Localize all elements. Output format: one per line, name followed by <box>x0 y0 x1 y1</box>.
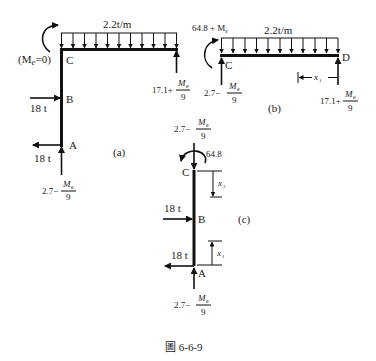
svg-text:e: e <box>186 83 189 89</box>
svg-text:17.1+: 17.1+ <box>152 85 173 95</box>
panel-tag-a: (a) <box>113 146 126 159</box>
svg-text:17.1+: 17.1+ <box>320 96 341 106</box>
svg-text:M: M <box>344 89 353 99</box>
panel-b: 2.2t/m 64.8 + Me C D x 1 2.7− M e 9 17.1… <box>192 23 358 115</box>
svg-text:9: 9 <box>201 307 206 317</box>
panel-a: 2.2t/m (Me=0) C B A 17.1+ M e 9 18 t 18 … <box>18 18 190 202</box>
panel-tag-b: (b) <box>268 102 281 115</box>
distributed-load-a <box>61 33 177 48</box>
panel-tag-c: (c) <box>238 213 251 226</box>
moment-label-b: 64.8 + Me <box>192 23 228 34</box>
svg-text:9: 9 <box>66 192 71 202</box>
moment-arrow-a <box>42 25 58 52</box>
svg-text:9: 9 <box>348 103 353 113</box>
reaction-bottom-label-a: 2.7− M e 9 <box>42 179 76 202</box>
svg-text:1: 1 <box>222 254 225 259</box>
svg-text:2.7−: 2.7− <box>204 88 220 98</box>
panel-c: 2.7− M e 9 64.8 C B A x 2 18 t (c) <box>163 117 251 317</box>
moment-label-a: (Me=0) <box>18 53 51 67</box>
svg-text:M: M <box>197 293 206 303</box>
moment-label-c: 64.8 <box>206 149 222 159</box>
node-c-a: C <box>66 54 73 66</box>
force-b-label-a: 18 t <box>30 102 47 114</box>
svg-text:9: 9 <box>201 131 206 141</box>
svg-text:M: M <box>177 78 186 88</box>
node-a-a: A <box>69 139 77 151</box>
svg-text:e: e <box>206 298 209 304</box>
svg-text:M: M <box>228 81 237 91</box>
svg-text:e: e <box>353 94 356 100</box>
node-d-b: D <box>342 51 350 63</box>
reaction-bottom-label-c: 2.7− M e 9 <box>174 293 211 317</box>
svg-text:M: M <box>197 117 206 127</box>
force-a-label-c: 18 t <box>171 249 188 261</box>
node-c-c: C <box>182 166 189 178</box>
node-c-b: C <box>225 59 232 71</box>
figure-caption: 圖 6-6-9 <box>165 341 203 353</box>
node-a-c: A <box>198 267 206 279</box>
svg-text:9: 9 <box>232 95 237 105</box>
force-b-label-c: 18 t <box>164 202 181 214</box>
dimension-x1-b: x 1 <box>298 72 337 83</box>
svg-text:e: e <box>206 122 209 128</box>
node-b-a: B <box>66 93 73 105</box>
svg-text:x: x <box>217 178 222 188</box>
svg-text:2.7−: 2.7− <box>42 186 58 196</box>
reaction-top-label-c: 2.7− M e 9 <box>174 117 211 141</box>
svg-text:e: e <box>71 184 74 190</box>
moment-arrow-b <box>205 40 218 68</box>
dimension-x2-c: x 2 <box>197 171 226 197</box>
svg-text:x: x <box>313 72 318 82</box>
svg-text:1: 1 <box>319 78 322 83</box>
reaction-right-label-a: 17.1+ M e 9 <box>152 78 190 102</box>
svg-text:e: e <box>237 86 240 92</box>
load-label-b: 2.2t/m <box>264 24 293 36</box>
svg-text:2: 2 <box>223 184 226 189</box>
dimension-x1-c: x 1 <box>197 241 225 265</box>
svg-text:x: x <box>216 248 221 258</box>
reaction-right-label-b: 17.1+ M e 9 <box>320 89 358 113</box>
svg-text:M: M <box>62 179 71 189</box>
figure-6-6-9: 2.2t/m (Me=0) C B A 17.1+ M e 9 18 t 18 … <box>0 0 376 361</box>
svg-text:2.7−: 2.7− <box>174 124 190 134</box>
distributed-load-b <box>221 38 338 53</box>
svg-text:2.7−: 2.7− <box>174 300 190 310</box>
reaction-left-label-b: 2.7− M e 9 <box>204 81 242 105</box>
load-label-a: 2.2t/m <box>103 18 132 30</box>
node-b-c: B <box>198 213 205 225</box>
svg-text:9: 9 <box>181 92 186 102</box>
force-a-label-a: 18 t <box>34 152 51 164</box>
